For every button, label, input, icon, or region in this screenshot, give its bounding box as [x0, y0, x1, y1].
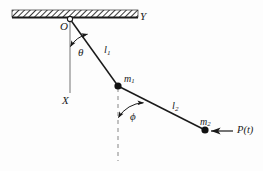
- label-mass-m1-sub: 1: [131, 77, 134, 84]
- label-mass-m1: m1: [124, 74, 135, 85]
- label-pivot-O: O: [60, 21, 68, 32]
- label-mass-m2: m2: [200, 117, 211, 128]
- rod-lower: [118, 86, 205, 130]
- label-length-l2: l2: [172, 101, 178, 113]
- label-length-l1-sub: 1: [107, 49, 111, 57]
- label-axis-X: X: [62, 95, 69, 106]
- label-axis-Y: Y: [140, 11, 146, 22]
- label-force-Pt: P(t): [237, 125, 253, 136]
- double-pendulum-figure: O Y X θ ϕ l1 l2 m1 m2 P(t): [0, 0, 263, 171]
- label-length-l1: l1: [104, 45, 110, 57]
- ceiling-support: [12, 10, 138, 18]
- label-mass-m2-sub: 2: [207, 120, 210, 127]
- figure-vector-canvas: [0, 0, 263, 171]
- label-angle-phi: ϕ: [130, 111, 136, 122]
- label-angle-theta: θ: [78, 47, 83, 58]
- label-length-l2-sub: 2: [175, 105, 179, 113]
- mass1-bob: [114, 82, 121, 89]
- pivot-joint: [67, 16, 72, 21]
